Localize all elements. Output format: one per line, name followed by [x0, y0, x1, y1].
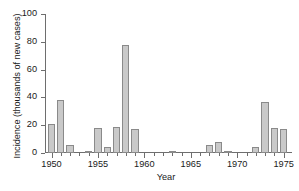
bar	[85, 151, 92, 153]
bar	[280, 129, 287, 153]
x-tick-mark-minor	[247, 153, 248, 156]
bar	[48, 124, 55, 153]
bar	[104, 147, 111, 153]
bar	[215, 142, 222, 153]
x-tick-mark-minor	[274, 153, 275, 156]
x-tick-mark-major	[144, 153, 145, 158]
bar	[122, 45, 129, 153]
x-tick-mark-minor	[70, 153, 71, 156]
x-tick-mark-minor	[107, 153, 108, 156]
bar	[57, 100, 64, 153]
x-tick-mark-minor	[219, 153, 220, 156]
bar	[131, 129, 138, 153]
x-tick-label: 1955	[78, 159, 118, 170]
y-tick-label: 100	[7, 9, 37, 18]
y-tick-mark	[41, 153, 45, 154]
x-tick-mark-major	[284, 153, 285, 158]
y-tick-label: 80	[7, 37, 37, 46]
y-tick-label: 0	[7, 148, 37, 157]
x-tick-mark-major	[98, 153, 99, 158]
x-tick-mark-minor	[163, 153, 164, 156]
x-tick-mark-minor	[135, 153, 136, 156]
bar	[66, 145, 73, 153]
y-axis-title: Incidence (thousands of new cases)	[10, 6, 24, 166]
x-tick-mark-minor	[209, 153, 210, 156]
bar	[224, 151, 231, 153]
x-tick-label: 1975	[264, 159, 299, 170]
bar	[169, 151, 176, 153]
x-tick-mark-minor	[89, 153, 90, 156]
x-tick-label: 1950	[32, 159, 72, 170]
x-tick-mark-major	[237, 153, 238, 158]
x-tick-mark-minor	[265, 153, 266, 156]
x-tick-mark-minor	[228, 153, 229, 156]
y-tick-label: 40	[7, 92, 37, 101]
x-tick-mark-major	[191, 153, 192, 158]
x-tick-mark-minor	[256, 153, 257, 156]
x-tick-mark-major	[52, 153, 53, 158]
y-tick-label: 20	[7, 120, 37, 129]
x-tick-label: 1960	[124, 159, 164, 170]
y-tick-label: 60	[7, 65, 37, 74]
bar	[252, 147, 259, 153]
x-tick-mark-minor	[200, 153, 201, 156]
bar	[261, 102, 268, 153]
bar	[206, 145, 213, 153]
x-axis-title: Year	[40, 172, 292, 182]
bar	[94, 128, 101, 153]
x-tick-label: 1965	[171, 159, 211, 170]
bar	[113, 127, 120, 153]
x-tick-mark-minor	[172, 153, 173, 156]
x-tick-mark-minor	[61, 153, 62, 156]
x-tick-mark-minor	[182, 153, 183, 156]
x-tick-label: 1970	[217, 159, 257, 170]
chart-figure: Incidence (thousands of new cases) Year …	[0, 0, 299, 191]
bar	[271, 128, 278, 153]
x-tick-mark-minor	[126, 153, 127, 156]
x-tick-mark-minor	[79, 153, 80, 156]
x-tick-mark-minor	[154, 153, 155, 156]
bar-series	[45, 14, 292, 153]
x-tick-mark-minor	[117, 153, 118, 156]
